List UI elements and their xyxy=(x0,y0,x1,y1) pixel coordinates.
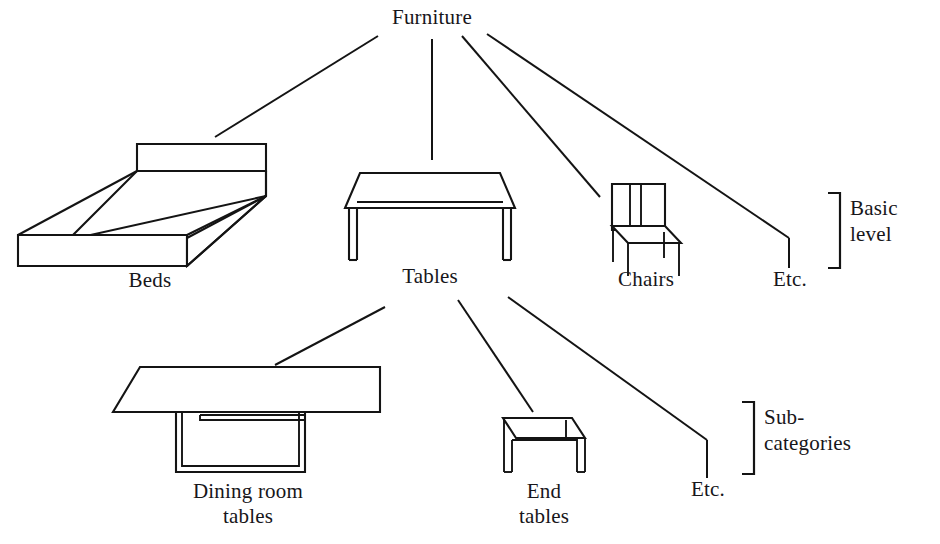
bed-headboard xyxy=(137,144,266,171)
end-table-illustration xyxy=(503,418,585,472)
branch-tables-to-dining xyxy=(275,307,385,365)
bed-illustration xyxy=(18,144,266,266)
node-label-chairs: Chairs xyxy=(618,267,674,292)
node-label-dining-room-tables-line1: Dining room xyxy=(193,479,303,504)
node-label-furniture: Furniture xyxy=(392,5,472,30)
node-label-dining-room-tables-line2: tables xyxy=(223,504,273,529)
basic-level-bracket xyxy=(828,193,840,268)
node-label-etc-basic: Etc. xyxy=(773,267,807,292)
chair-back-frame xyxy=(612,184,665,230)
table-illustration xyxy=(345,173,515,260)
bracket-label-subcategories-line2: categories xyxy=(764,431,851,456)
dining-table-illustration xyxy=(113,367,380,472)
branch-furniture-to-beds xyxy=(215,36,378,137)
node-label-end-tables-line1: End xyxy=(527,479,561,504)
branch-tables-to-end-tables xyxy=(458,300,533,412)
node-label-tables: Tables xyxy=(402,264,458,289)
bed-mattress-top xyxy=(68,171,266,240)
bracket-label-basic-level-line2: level xyxy=(850,222,892,247)
chair-illustration xyxy=(612,184,681,276)
end-table-top xyxy=(503,418,585,438)
chair-seat xyxy=(612,226,681,243)
node-label-beds: Beds xyxy=(129,268,172,293)
node-label-end-tables-line2: tables xyxy=(519,504,569,529)
dining-table-top xyxy=(113,367,380,412)
bracket-label-subcategories-line1: Sub- xyxy=(764,405,804,430)
bracket-basic-level xyxy=(828,193,840,268)
bracket-label-basic-level-line1: Basic xyxy=(850,196,898,221)
bracket-subcategories xyxy=(742,402,754,474)
bed-front-rail xyxy=(18,235,187,266)
dining-table-trestle-outer xyxy=(176,412,305,472)
subcategories-bracket xyxy=(742,402,754,474)
taxonomy-diagram: Furniture Beds Tables Chairs Etc. Dining… xyxy=(0,0,940,544)
node-label-etc-sub: Etc. xyxy=(691,477,725,502)
